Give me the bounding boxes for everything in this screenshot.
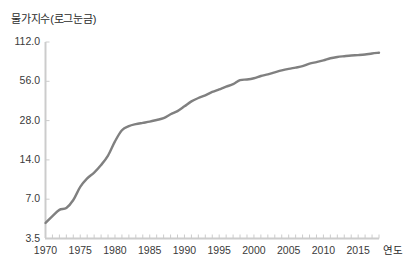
y-axis-tick-label: 7.0 (2, 193, 40, 204)
plot-area (0, 0, 409, 273)
axis-lines (45, 42, 379, 239)
y-axis-tick-label: 56.0 (2, 75, 40, 86)
y-axis-tick-label: 28.0 (2, 115, 40, 126)
y-axis-tick-label: 14.0 (2, 154, 40, 165)
price-index-line (46, 53, 380, 223)
x-axis-title: 연도 (383, 245, 403, 256)
x-axis-tick-label: 2015 (338, 245, 378, 256)
y-axis-tick-label: 112.0 (2, 36, 40, 47)
y-axis-tick-label: 3.5 (2, 233, 40, 244)
price-index-log-chart: 물가지수(로그눈금) 112.056.028.014.07.03.5 19701… (0, 0, 409, 273)
